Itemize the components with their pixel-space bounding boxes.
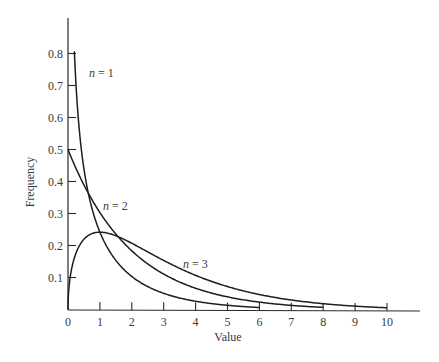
y-tick-label: 0.3 [48, 207, 63, 221]
x-tick-label: 5 [225, 315, 231, 329]
curve-n3 [68, 232, 387, 309]
y-tick-label: 0.6 [48, 111, 63, 125]
y-tick-label: 0.7 [48, 79, 63, 93]
curve-n2 [68, 150, 323, 308]
x-tick-label: 3 [161, 315, 167, 329]
y-axis-title: Frequency [23, 157, 37, 208]
x-tick-label: 4 [193, 315, 199, 329]
curves [68, 51, 387, 309]
x-tick-label: 7 [288, 315, 294, 329]
y-tick-label: 0.5 [48, 143, 63, 157]
curve-label-n1: n = 1 [89, 66, 114, 80]
y-ticks: 0.10.20.30.40.50.60.70.8 [48, 47, 76, 285]
y-tick-label: 0.1 [48, 271, 63, 285]
x-tick-label: 8 [320, 315, 326, 329]
x-axis [68, 310, 420, 311]
x-tick-label: 6 [256, 315, 262, 329]
curve-label-n2: n = 2 [103, 199, 128, 213]
curve-n1 [74, 51, 259, 307]
x-tick-label: 0 [65, 315, 71, 329]
y-tick-label: 0.2 [48, 239, 63, 253]
curve-label-n3: n = 3 [183, 257, 208, 271]
x-tick-label: 9 [352, 315, 358, 329]
y-tick-label: 0.4 [48, 175, 63, 189]
chart: 0.10.20.30.40.50.60.70.8 012345678910 Va… [0, 0, 439, 362]
x-tick-label: 1 [97, 315, 103, 329]
y-tick-label: 0.8 [48, 47, 63, 61]
x-axis-title: Value [214, 330, 241, 344]
x-tick-label: 10 [381, 315, 393, 329]
x-tick-label: 2 [129, 315, 135, 329]
